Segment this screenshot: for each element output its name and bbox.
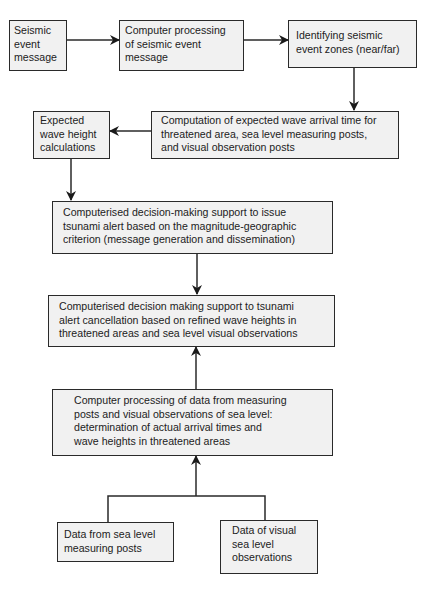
node-text-line: Computerised decision-making support to … — [63, 206, 322, 220]
connector-b9-b10 — [108, 496, 265, 522]
node-text-line: Identifying seismic — [296, 29, 409, 43]
node-text-line: criterion (message generation and dissem… — [63, 233, 322, 247]
node-sea-level-posts-data: Data from sea level measuring posts — [57, 522, 174, 562]
node-text-line: observations — [232, 551, 306, 565]
node-text-line: wave heights in threatened areas — [74, 435, 332, 449]
node-text-line: message — [14, 51, 62, 65]
node-computation-arrival-time: Computation of expected wave arrival tim… — [151, 111, 399, 159]
node-text-line: Expected — [40, 114, 103, 128]
node-text-line: Computer processing of data from measuri… — [74, 394, 332, 408]
node-text-line: of seismic event — [125, 38, 238, 52]
node-text-line: tsunami alert based on the magnitude-geo… — [63, 220, 322, 234]
node-processing-measuring-data: Computer processing of data from measuri… — [52, 389, 333, 456]
node-issue-alert: Computerised decision-making support to … — [52, 201, 333, 254]
node-text-line: alert cancellation based on refined wave… — [59, 314, 324, 328]
node-text-line: event zones (near/far) — [296, 43, 409, 57]
node-text-line: posts and visual observations of sea lev… — [74, 408, 332, 422]
node-text-line: threatened area, sea level measuring pos… — [161, 128, 389, 142]
node-text-line: threatened areas and sea level visual ob… — [59, 327, 324, 341]
node-visual-observations-data: Data of visual sea level observations — [220, 520, 318, 574]
node-text-line: measuring posts — [64, 542, 167, 556]
node-alert-cancellation: Computerised decision making support to … — [48, 295, 335, 347]
node-text-line: Seismic — [14, 24, 62, 38]
node-text-line: and visual observation posts — [161, 141, 389, 155]
node-computer-processing-seismic: Computer processing of seismic event mes… — [119, 20, 244, 71]
node-expected-wave-height: Expected wave height calculations — [33, 111, 110, 159]
node-text-line: Computation of expected wave arrival tim… — [161, 114, 389, 128]
node-text-line: wave height — [40, 128, 103, 142]
node-text-line: Computerised decision making support to … — [59, 300, 324, 314]
node-text-line: sea level — [232, 538, 306, 552]
node-text-line: message — [125, 51, 238, 65]
node-seismic-event-message: Seismic event message — [9, 20, 67, 71]
node-text-line: event — [14, 38, 62, 52]
node-text-line: determination of actual arrival times an… — [74, 421, 332, 435]
node-text-line: calculations — [40, 141, 103, 155]
node-text-line: Computer processing — [125, 24, 238, 38]
node-identifying-zones: Identifying seismic event zones (near/fa… — [288, 20, 417, 68]
node-text-line: Data of visual — [232, 524, 306, 538]
node-text-line: Data from sea level — [64, 528, 167, 542]
